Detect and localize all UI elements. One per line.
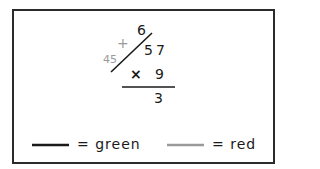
multiply-operator-icon: × — [130, 67, 142, 81]
annotation-value: 45 — [103, 54, 117, 65]
digit-ones: 7 — [156, 43, 165, 57]
plus-annotation: + — [117, 36, 129, 50]
crossed-digit-tens: 5 — [144, 43, 153, 57]
partial-product-digit: 3 — [154, 91, 163, 105]
carry-digit: 6 — [137, 23, 146, 37]
legend-label-red: = red — [212, 137, 256, 151]
legend-label-green: = green — [77, 137, 141, 151]
multiplier-digit: 9 — [155, 67, 164, 81]
